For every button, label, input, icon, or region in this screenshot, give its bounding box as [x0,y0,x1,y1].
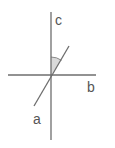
label-a: a [33,111,41,127]
label-b: b [87,79,95,95]
label-c: c [55,12,62,28]
intersecting-lines-diagram: c b a [0,0,115,148]
